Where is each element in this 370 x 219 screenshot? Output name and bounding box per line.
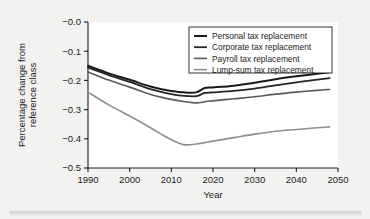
x-tick-label: 1990 <box>77 174 98 185</box>
legend-label-4: Lump-sum tax replacement <box>212 65 314 75</box>
line-chart: −0.0−0.1−0.2−0.3−0.4−0.5 199020002010202… <box>0 0 370 219</box>
x-tick-label: 2040 <box>286 174 307 185</box>
y-tick-label: −0.5 <box>62 162 81 173</box>
x-tick-label: 2030 <box>244 174 265 185</box>
x-tick-label: 2010 <box>161 174 182 185</box>
y-tick-label: −0.4 <box>62 133 81 144</box>
x-axis-title: Year <box>203 189 222 200</box>
y-axis-ticks: −0.0−0.1−0.2−0.3−0.4−0.5 <box>62 16 88 173</box>
x-tick-label: 2020 <box>202 174 223 185</box>
x-tick-label: 2000 <box>119 174 140 185</box>
y-tick-label: −0.2 <box>62 75 81 86</box>
y-tick-label: −0.3 <box>62 104 81 115</box>
legend-label-2: Corporate tax replacement <box>212 42 312 52</box>
legend-label-3: Payroll tax replacement <box>212 54 300 64</box>
legend-label-1: Personal tax replacement <box>212 31 308 41</box>
y-tick-label: −0.0 <box>62 16 81 27</box>
y-axis-title-line1: Percentage change from <box>16 43 27 147</box>
chart-plot-area: −0.0−0.1−0.2−0.3−0.4−0.5 199020002010202… <box>0 0 370 219</box>
x-tick-label: 2050 <box>327 174 348 185</box>
x-axis-ticks: 1990200020102020203020402050 <box>77 168 348 185</box>
y-tick-label: −0.1 <box>62 46 81 57</box>
y-axis-title-line2: reference class <box>27 63 38 128</box>
figure-container: −0.0−0.1−0.2−0.3−0.4−0.5 199020002010202… <box>0 0 370 219</box>
legend-items: Personal tax replacementCorporate tax re… <box>194 31 314 75</box>
chart-legend: Personal tax replacementCorporate tax re… <box>189 27 332 75</box>
y-axis-title: Percentage change from reference class <box>16 43 38 147</box>
